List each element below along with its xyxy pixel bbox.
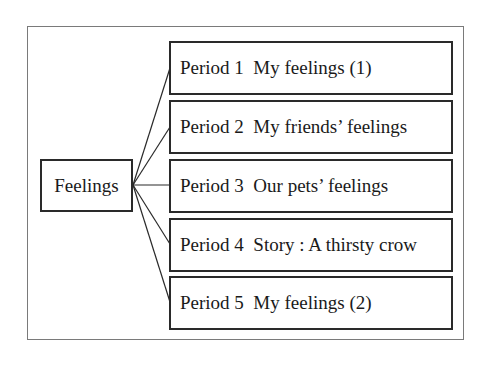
node-period-3: Period 3 Our pets’ feelings — [169, 159, 453, 213]
root-node-label: Feelings — [54, 175, 118, 197]
connector-period-5 — [133, 185, 170, 302]
root-node-feelings: Feelings — [40, 159, 133, 212]
node-label: Period 3 Our pets’ feelings — [180, 175, 388, 197]
connector-period-4 — [133, 185, 170, 244]
node-label: Period 1 My feelings (1) — [180, 57, 372, 79]
connector-period-2 — [133, 127, 170, 185]
node-period-5: Period 5 My feelings (2) — [169, 276, 453, 330]
node-period-4: Period 4 Story : A thirsty crow — [169, 218, 453, 272]
node-label: Period 2 My friends’ feelings — [180, 116, 407, 138]
node-label: Period 5 My feelings (2) — [180, 292, 372, 314]
connector-period-1 — [133, 68, 170, 185]
node-period-2: Period 2 My friends’ feelings — [169, 100, 453, 154]
node-label: Period 4 Story : A thirsty crow — [180, 234, 417, 256]
node-period-1: Period 1 My feelings (1) — [169, 41, 453, 95]
